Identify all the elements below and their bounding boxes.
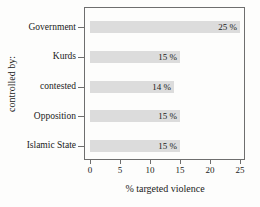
- bar-value-label-contested: 14 %: [90, 81, 174, 93]
- bar-chart-figure: Government25 %Kurds15 %contested14 %Oppo…: [0, 0, 260, 207]
- bar-value-label-opposition: 15 %: [90, 110, 180, 122]
- y-tick-contested: [78, 87, 84, 88]
- x-tick-label-15: 15: [168, 165, 192, 175]
- x-tick-label-20: 20: [198, 165, 222, 175]
- category-label-government: Government: [0, 21, 76, 34]
- x-tick-label-0: 0: [78, 165, 102, 175]
- x-tick-10: [150, 160, 151, 164]
- x-tick-20: [210, 160, 211, 164]
- category-label-islamic-state: Islamic State: [0, 139, 76, 152]
- y-tick-kurds: [78, 57, 84, 58]
- x-axis-title: % targeted violence: [84, 183, 246, 194]
- x-tick-15: [180, 160, 181, 164]
- x-tick-5: [120, 160, 121, 164]
- bar-value-label-government: 25 %: [90, 21, 240, 33]
- bar-government: 25 %: [90, 21, 240, 33]
- bar-islamic-state: 15 %: [90, 140, 180, 152]
- x-tick-label-25: 25: [228, 165, 252, 175]
- bar-kurds: 15 %: [90, 51, 180, 63]
- x-tick-25: [240, 160, 241, 164]
- bar-value-label-kurds: 15 %: [90, 51, 180, 63]
- x-tick-label-10: 10: [138, 165, 162, 175]
- x-tick-0: [90, 160, 91, 164]
- y-axis-title: controlled by:: [6, 56, 17, 112]
- bar-contested: 14 %: [90, 81, 174, 93]
- x-tick-label-5: 5: [108, 165, 132, 175]
- bar-opposition: 15 %: [90, 110, 180, 122]
- y-tick-opposition: [78, 116, 84, 117]
- y-tick-islamic-state: [78, 146, 84, 147]
- y-tick-government: [78, 27, 84, 28]
- bar-value-label-islamic-state: 15 %: [90, 140, 180, 152]
